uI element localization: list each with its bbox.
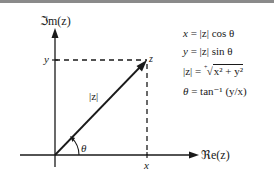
y-tick-label: y (44, 53, 49, 65)
modulus-label: |z| (89, 90, 98, 102)
equation-theta: θ = tan⁻¹ (y/x) (183, 85, 247, 98)
equation-modulus: |z| = + √x² + y² (183, 65, 243, 78)
imaginary-axis-label: ℑm(z) (40, 15, 71, 27)
x-tick-label: x (144, 159, 149, 171)
real-axis-arrow-icon (189, 152, 199, 159)
equation-x: x = |z| cos θ (183, 27, 234, 40)
angle-label: θ (81, 142, 86, 154)
point-z-label: z (149, 53, 153, 65)
real-axis-label: ℜe(z) (201, 149, 230, 161)
modulus-vector (55, 65, 142, 155)
cube-root-symbol: + √ (204, 65, 213, 78)
equation-y: y = |z| sin θ (183, 45, 233, 58)
imaginary-axis-arrow-icon (52, 28, 59, 38)
